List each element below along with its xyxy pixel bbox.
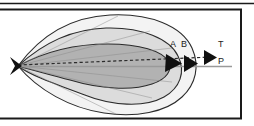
vector-label-b: B xyxy=(181,40,187,49)
vector-label-p: P xyxy=(218,57,224,66)
vector-label-t: T xyxy=(218,40,224,49)
lobe-diagram-svg xyxy=(0,0,254,126)
figure-container: A B T P xyxy=(0,0,254,126)
vector-label-a: A xyxy=(170,40,176,49)
